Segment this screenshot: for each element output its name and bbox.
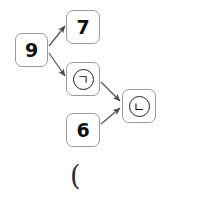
node-9[interactable]: 9 <box>15 33 48 67</box>
node-9-label: 9 <box>25 41 38 60</box>
diagram-canvas: 9 7 ㄱ 6 ㄴ ( <box>0 0 209 203</box>
edge-n9-to-ng <box>49 53 65 76</box>
edge-ng-to-nn <box>101 82 120 101</box>
node-6-label: 6 <box>76 121 89 140</box>
edge-layer <box>0 0 209 203</box>
node-circled-nieun[interactable]: ㄴ <box>122 89 156 123</box>
circle-outline-nieun-icon: ㄴ <box>129 96 150 117</box>
node-6[interactable]: 6 <box>66 113 100 147</box>
edge-n9-to-n7 <box>49 26 65 46</box>
node-circled-giyeok[interactable]: ㄱ <box>66 62 100 96</box>
annotation-paren: ( <box>70 162 81 189</box>
node-circled-nieun-label: ㄴ <box>133 99 145 112</box>
node-circled-giyeok-label: ㄱ <box>77 72 89 85</box>
node-7[interactable]: 7 <box>66 10 100 44</box>
edge-n6-to-nn <box>101 108 120 124</box>
node-7-label: 7 <box>76 18 89 37</box>
circle-outline-giyeok-icon: ㄱ <box>73 69 94 90</box>
